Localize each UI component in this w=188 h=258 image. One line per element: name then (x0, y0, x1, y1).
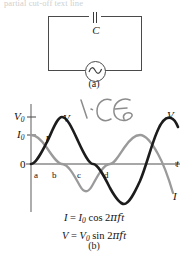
curve-label-voltage-left: V (63, 112, 70, 124)
x-tick-a: a (34, 170, 38, 180)
origin-label: 0 (20, 158, 26, 170)
panel-a-label: (a) (74, 78, 114, 89)
x-axis-label-t: t (176, 158, 179, 169)
wire-right (141, 16, 142, 71)
wire-bottom-left (48, 70, 85, 71)
x-tick-d: d (104, 170, 109, 180)
voltage-curve (31, 117, 178, 204)
wire-top-right (101, 16, 142, 17)
x-tick-c: c (77, 170, 81, 180)
y-axis-label-i0: I0 (17, 128, 24, 142)
equation-current: I = I0 cos 2πft (0, 210, 188, 228)
wire-bottom-right (104, 70, 142, 71)
cropped-top-text: partial cut-off text line (4, 0, 124, 9)
curve-label-voltage-right: V (167, 109, 174, 121)
ice-annotation (78, 94, 142, 128)
circuit-diagram: C (48, 16, 142, 74)
x-tick-b: b (52, 170, 57, 180)
curve-label-current-right: I (173, 190, 177, 202)
wire-left (48, 16, 49, 71)
curve-label-current-left: I (45, 133, 49, 145)
figure-root: partial cut-off text line C (a) (0, 0, 188, 258)
capacitor-icon (89, 12, 101, 23)
panel-b-label: (b) (74, 240, 114, 251)
wire-top-left (48, 16, 89, 17)
y-axis-label-v0: V0 (14, 110, 24, 124)
capacitor-label: C (88, 24, 104, 36)
